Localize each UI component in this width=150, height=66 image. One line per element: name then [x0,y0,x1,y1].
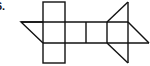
vertical-rectangle [43,2,65,63]
bottom-triangle-hyp [107,43,128,63]
left-triangle [21,22,43,43]
right-triangle-hyp [128,22,149,43]
top-triangle-hyp [107,2,128,22]
net-diagram [0,0,150,66]
